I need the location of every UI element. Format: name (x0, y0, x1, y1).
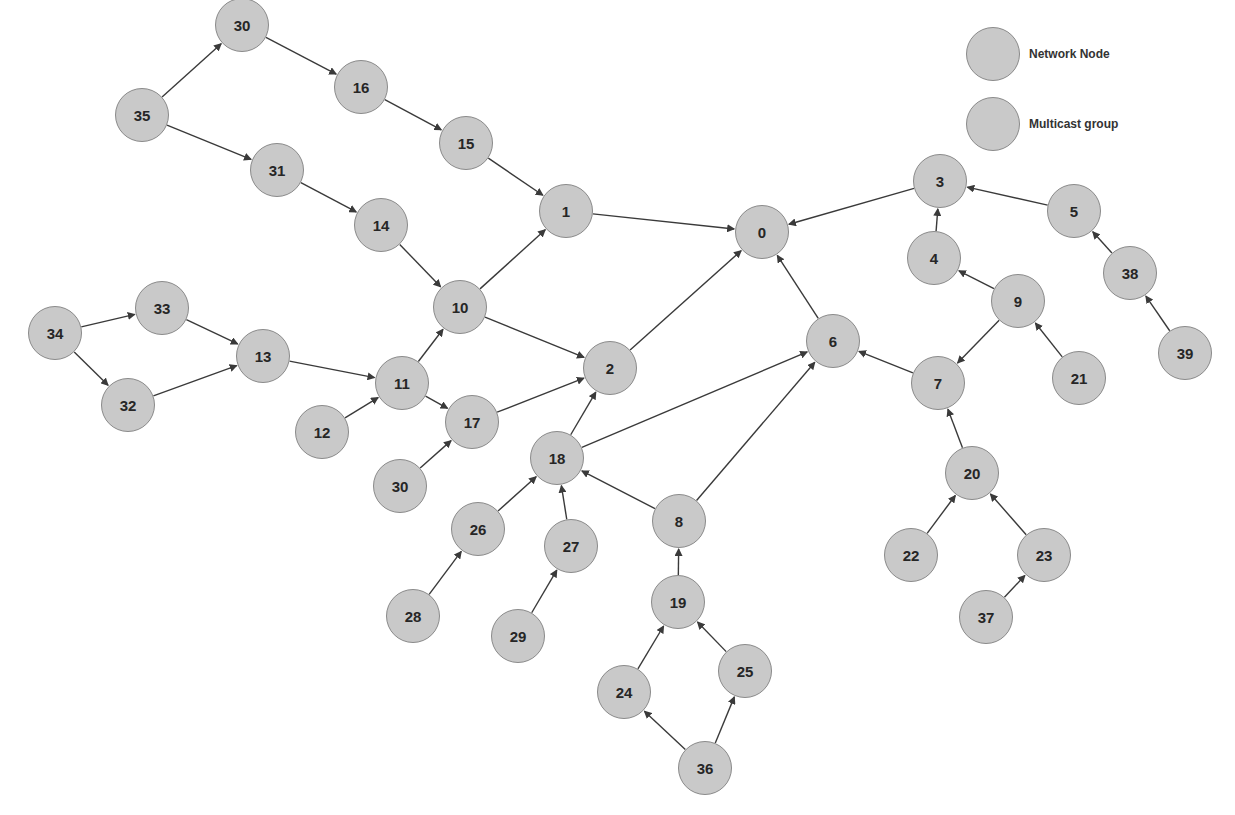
edge-n32-to-n13 (153, 366, 236, 396)
edge-n9-to-n4 (959, 271, 994, 289)
edge-n7-to-n6 (859, 351, 913, 373)
edge-n21-to-n9 (1035, 323, 1062, 357)
node-n38: 38 (1103, 246, 1157, 300)
edge-n36-to-n25 (715, 697, 734, 743)
edge-n11-to-n10 (418, 329, 443, 361)
edge-n18-to-n2 (571, 392, 596, 435)
multicast-group-swatch-icon (966, 97, 1020, 151)
node-n20: 20 (945, 446, 999, 500)
node-n18: 18 (530, 431, 584, 485)
node-n15: 15 (439, 116, 493, 170)
edge-n34-to-n33 (81, 314, 134, 326)
node-n30a: 30 (215, 0, 269, 52)
edge-n11-to-n17 (426, 396, 448, 408)
node-n28: 28 (386, 589, 440, 643)
edge-n17-to-n2 (497, 378, 584, 412)
edge-n10-to-n2 (485, 317, 584, 357)
edge-n27-to-n18 (561, 486, 566, 520)
edge-n29-to-n27 (532, 570, 557, 613)
edge-n14-to-n10 (400, 244, 441, 286)
edge-n33-to-n13 (186, 320, 237, 344)
edge-n13-to-n11 (290, 361, 375, 378)
legend-label: Multicast group (1029, 117, 1118, 131)
legend-label: Network Node (1029, 47, 1110, 61)
edge-n10-to-n1 (480, 230, 545, 289)
edge-n4-to-n3 (936, 209, 938, 231)
node-n25: 25 (718, 644, 772, 698)
legend-item-multicast-group: Multicast group (966, 97, 1118, 151)
edge-n39-to-n38 (1146, 296, 1170, 331)
edge-n2-to-n0 (630, 251, 741, 350)
edge-n30b-to-n17 (420, 441, 451, 468)
edge-n34-to-n32 (74, 352, 108, 385)
network-node-swatch-icon (966, 27, 1020, 81)
edge-n12-to-n11 (345, 398, 378, 418)
edge-n3-to-n0 (789, 188, 914, 224)
node-n7: 7 (911, 356, 965, 410)
node-n30b: 30 (373, 459, 427, 513)
node-n3: 3 (913, 154, 967, 208)
node-n6: 6 (806, 314, 860, 368)
edge-n35-to-n30a (162, 44, 221, 97)
edge-n37-to-n23 (1004, 575, 1024, 597)
edge-n31-to-n14 (301, 183, 356, 212)
node-n0: 0 (735, 205, 789, 259)
edge-n1-to-n0 (593, 214, 734, 229)
edge-n26-to-n18 (498, 477, 536, 511)
node-n29: 29 (491, 609, 545, 663)
node-n12: 12 (295, 405, 349, 459)
node-n11: 11 (375, 356, 429, 410)
node-n1: 1 (539, 184, 593, 238)
edge-n9-to-n7 (958, 320, 1000, 363)
node-n13: 13 (236, 329, 290, 383)
node-n2: 2 (583, 341, 637, 395)
edge-n8-to-n18 (582, 471, 655, 509)
node-n16: 16 (334, 60, 388, 114)
edge-n28-to-n26 (429, 551, 461, 594)
edge-n24-to-n19 (638, 626, 664, 669)
node-n34: 34 (28, 306, 82, 360)
node-n22: 22 (884, 528, 938, 582)
edge-n35-to-n31 (167, 125, 251, 159)
edge-n30a-to-n16 (266, 37, 336, 74)
edge-n36-to-n24 (644, 711, 685, 749)
edge-n8-to-n6 (697, 362, 815, 500)
node-n19: 19 (651, 575, 705, 629)
node-n14: 14 (354, 198, 408, 252)
legend-item-network-node: Network Node (966, 27, 1110, 81)
node-n31: 31 (250, 143, 304, 197)
edge-n38-to-n5 (1093, 232, 1112, 253)
node-n35: 35 (115, 88, 169, 142)
node-n24: 24 (597, 665, 651, 719)
node-n4: 4 (907, 231, 961, 285)
node-n37: 37 (959, 590, 1013, 644)
node-n26: 26 (451, 502, 505, 556)
node-n9: 9 (991, 274, 1045, 328)
multicast-network-diagram: 3016351531114035410938343313621172139321… (0, 0, 1235, 815)
node-n21: 21 (1052, 351, 1106, 405)
node-n36: 36 (678, 741, 732, 795)
node-n10: 10 (433, 280, 487, 334)
edge-n5-to-n3 (967, 187, 1047, 205)
edge-n16-to-n15 (385, 100, 441, 130)
edge-n6-to-n0 (777, 255, 818, 318)
node-n33: 33 (135, 281, 189, 335)
node-n27: 27 (544, 519, 598, 573)
edge-n20-to-n7 (948, 409, 963, 448)
edge-n15-to-n1 (488, 158, 543, 195)
node-n5: 5 (1047, 184, 1101, 238)
node-n32: 32 (101, 378, 155, 432)
node-n17: 17 (445, 395, 499, 449)
edge-n23-to-n20 (990, 494, 1026, 535)
edge-n25-to-n19 (698, 622, 727, 652)
node-n8: 8 (652, 494, 706, 548)
node-n23: 23 (1017, 528, 1071, 582)
node-n39: 39 (1158, 326, 1212, 380)
edge-n22-to-n20 (927, 495, 955, 533)
